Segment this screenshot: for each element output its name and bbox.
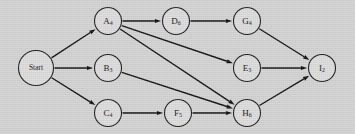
arrowhead-start-to-b — [87, 66, 93, 70]
arrowhead-a-to-h — [228, 100, 234, 105]
arrowhead-d-to-g — [226, 19, 232, 23]
node-label-subscript-b: 3 — [110, 67, 113, 73]
arrowhead-a-to-d — [155, 19, 161, 23]
node-label-subscript-f: 5 — [179, 112, 182, 118]
edge-start-to-a — [51, 33, 90, 58]
node-c[interactable]: C4 — [95, 100, 122, 127]
arrowhead-g-to-i — [303, 55, 309, 60]
node-a[interactable]: A4 — [95, 8, 122, 35]
node-g[interactable]: G4 — [234, 8, 261, 35]
node-label-subscript-e: 3 — [248, 67, 251, 73]
edge-a-to-h — [120, 29, 229, 101]
node-label-start: Start — [29, 63, 44, 72]
arrowhead-h-to-i — [303, 76, 309, 81]
node-i[interactable]: I2 — [309, 55, 336, 82]
node-label-subscript-i: 2 — [322, 67, 325, 73]
arrowhead-start-to-a — [89, 29, 95, 34]
arrowhead-c-to-f — [157, 111, 163, 115]
edge-h-to-i — [259, 79, 303, 106]
node-b[interactable]: B3 — [95, 55, 122, 82]
node-label-subscript-a: 4 — [110, 20, 113, 26]
edge-start-to-c — [52, 78, 90, 102]
node-label-subscript-g: 4 — [249, 20, 252, 26]
edge-g-to-i — [259, 29, 304, 57]
arrowhead-b-to-h — [226, 105, 233, 109]
node-h[interactable]: H6 — [234, 100, 261, 127]
node-label-subscript-d: 6 — [178, 20, 181, 26]
network-diagram-canvas: StartA4B3C4D6E3F5G4H6I2 — [0, 0, 355, 134]
node-f[interactable]: F5 — [165, 100, 192, 127]
node-e[interactable]: E3 — [234, 55, 261, 82]
arrowhead-start-to-c — [89, 100, 95, 105]
node-d[interactable]: D6 — [163, 8, 190, 35]
node-label-subscript-c: 4 — [110, 112, 113, 118]
arrowhead-a-to-e — [226, 59, 233, 63]
arrowhead-e-to-i — [301, 66, 307, 70]
node-label-subscript-h: 6 — [249, 112, 252, 118]
arrowhead-f-to-h — [226, 111, 232, 115]
network-diagram: StartA4B3C4D6E3F5G4H6I2 — [0, 0, 355, 134]
node-start[interactable]: Start — [19, 51, 54, 86]
